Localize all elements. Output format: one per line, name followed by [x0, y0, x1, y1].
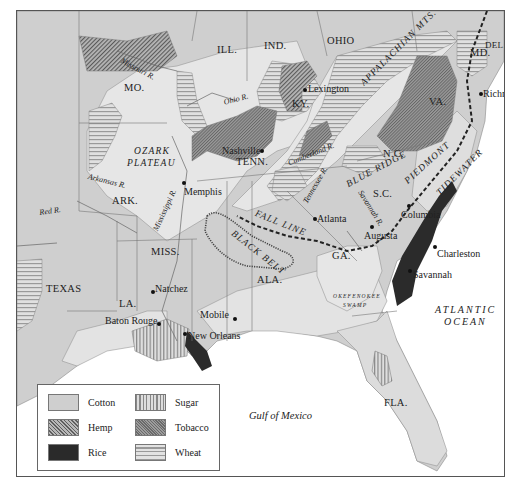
state-label-mo: MO. — [124, 83, 144, 94]
city-label-atlanta: Atlanta — [317, 214, 346, 224]
state-label-va: VA. — [429, 97, 446, 108]
city-label-richmond: Richmond — [483, 89, 505, 99]
wheat-swatch-icon — [135, 444, 166, 461]
city-label-natchez: Natchez — [155, 284, 188, 294]
city-label-columbia: Columbia — [401, 210, 440, 220]
legend-item-cotton: Cotton — [48, 394, 115, 411]
region-label-ozark-1: OZARK — [134, 147, 170, 157]
city-label-mobile: Mobile — [200, 310, 229, 320]
state-label-ark: ARK. — [112, 196, 138, 207]
sugar-swatch-icon — [135, 394, 166, 411]
rice-swatch-icon — [48, 444, 79, 461]
state-label-ga: GA. — [332, 251, 351, 262]
state-label-sc: S.C. — [373, 189, 392, 200]
water-label-gulf: Gulf of Mexico — [249, 411, 312, 422]
region-label-ozark-2: PLATEAU — [127, 159, 176, 169]
state-label-del: DEL. — [485, 41, 505, 50]
state-label-miss: MISS. — [151, 247, 180, 258]
city-label-charleston: Charleston — [437, 249, 480, 259]
region-label-okefenokee-2: SWAMP — [343, 303, 367, 309]
hemp-swatch-icon — [48, 419, 79, 436]
legend-label: Sugar — [175, 397, 198, 408]
legend-item-tobacco: Tobacco — [135, 419, 209, 436]
legend-label: Tobacco — [175, 422, 209, 433]
state-label-ind: IND. — [264, 41, 287, 52]
city-label-savannah: Savannah — [413, 270, 452, 280]
tobacco-swatch-icon — [135, 419, 166, 436]
florida — [337, 311, 447, 466]
region-label-okefenokee-1: OKEFENOKEE — [333, 294, 381, 300]
water-label-atlantic-1: ATLANTIC — [435, 305, 496, 315]
city-marker-savannah — [408, 269, 412, 273]
state-label-texas: TEXAS — [46, 284, 81, 295]
legend-label: Cotton — [88, 397, 115, 408]
city-marker-columbia — [407, 204, 411, 208]
city-marker-lexington — [303, 88, 307, 92]
legend-item-sugar: Sugar — [135, 394, 198, 411]
state-label-ill: ILL. — [217, 45, 237, 56]
state-label-tenn: TENN. — [236, 157, 268, 168]
state-label-fla: FLA. — [384, 398, 408, 409]
state-label-la: LA. — [119, 299, 137, 310]
city-label-baton-rouge: Baton Rouge — [105, 316, 158, 326]
cotton-swatch-icon — [48, 394, 79, 411]
state-label-ky: KY. — [292, 99, 309, 110]
map-legend: Cotton Sugar Hemp Tobacco Rice Wheat — [37, 384, 220, 471]
city-label-nashville: Nashville — [222, 146, 260, 156]
city-marker-nashville — [260, 149, 264, 153]
city-marker-new-orleans — [183, 332, 187, 336]
legend-item-hemp: Hemp — [48, 419, 112, 436]
state-label-ala: ALA. — [257, 275, 282, 286]
city-label-memphis: Memphis — [184, 187, 222, 197]
legend-label: Hemp — [88, 422, 112, 433]
city-marker-mobile — [233, 317, 237, 321]
city-label-lexington: Lexington — [308, 84, 349, 94]
city-marker-augusta — [370, 225, 374, 229]
water-label-atlantic-2: OCEAN — [444, 317, 487, 327]
state-label-ohio: OHIO — [327, 36, 354, 47]
city-marker-memphis — [182, 181, 186, 185]
legend-item-rice: Rice — [48, 444, 106, 461]
city-label-new-orleans: New Orleans — [188, 331, 240, 341]
legend-item-wheat: Wheat — [135, 444, 201, 461]
legend-label: Wheat — [175, 447, 201, 458]
city-label-augusta: Augusta — [364, 231, 397, 241]
legend-label: Rice — [88, 447, 106, 458]
